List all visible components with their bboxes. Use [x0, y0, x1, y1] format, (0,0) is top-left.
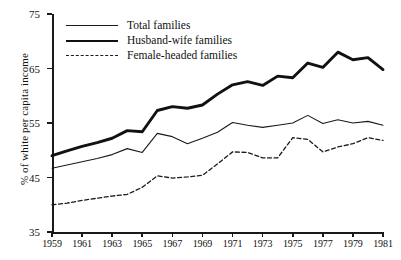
y-axis-tick-label: 65	[29, 63, 40, 75]
x-axis-tick-label: 1971	[223, 238, 243, 249]
y-axis-tick-label: 75	[29, 8, 40, 20]
legend-label: Female-headed families	[127, 49, 237, 61]
series-line	[52, 138, 383, 205]
x-axis-tick	[292, 232, 294, 237]
x-axis-tick-label: 1973	[253, 238, 273, 249]
x-axis-tick	[262, 232, 264, 237]
y-axis-tick-label: 35	[29, 226, 40, 238]
x-axis-tick-label: 1959	[42, 238, 62, 249]
x-axis-tick	[111, 232, 113, 237]
legend: Total families Husband-wife families Fem…	[66, 17, 237, 62]
y-axis-tick-label: 45	[29, 172, 40, 184]
x-axis-tick-label: 1979	[343, 238, 363, 249]
legend-item-female-headed-families: Female-headed families	[66, 47, 237, 62]
x-axis-tick-label: 1977	[313, 238, 333, 249]
x-axis-tick	[232, 232, 234, 237]
x-axis-tick	[51, 232, 53, 237]
legend-item-husband-wife-families: Husband-wife families	[66, 32, 237, 47]
line-chart: % of white per capita income 3545556575 …	[0, 0, 401, 260]
x-axis-tick-label: 1975	[283, 238, 303, 249]
x-axis-tick-label: 1963	[102, 238, 122, 249]
legend-swatch-dashed-icon	[66, 49, 118, 61]
x-axis-tick-label: 1969	[193, 238, 213, 249]
legend-item-total-families: Total families	[66, 17, 237, 32]
x-axis-tick	[352, 232, 354, 237]
x-axis-tick	[172, 232, 174, 237]
legend-label: Husband-wife families	[127, 34, 232, 46]
x-axis-tick	[382, 232, 384, 237]
x-axis-tick-label: 1961	[72, 238, 92, 249]
x-axis-tick	[141, 232, 143, 237]
x-axis-tick	[202, 232, 204, 237]
x-axis-line	[52, 232, 383, 234]
x-axis-tick	[322, 232, 324, 237]
x-axis-tick-label: 1981	[373, 238, 393, 249]
series-line	[52, 52, 383, 156]
legend-label: Total families	[127, 19, 190, 31]
plot-area: 3545556575 19591961196319651967196919711…	[52, 14, 383, 232]
legend-swatch-thick-solid-icon	[66, 34, 118, 46]
legend-swatch-thin-solid-icon	[66, 19, 118, 31]
x-axis-tick	[81, 232, 83, 237]
x-axis-tick-label: 1967	[163, 238, 183, 249]
y-axis-tick-label: 55	[29, 117, 40, 129]
x-axis-tick-label: 1965	[132, 238, 152, 249]
